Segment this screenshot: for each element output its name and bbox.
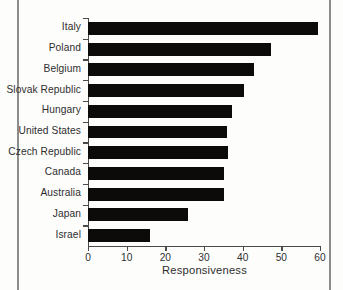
category-label: Italy [62, 21, 81, 32]
bar [88, 105, 232, 118]
bar [88, 126, 227, 139]
bar [88, 208, 188, 221]
bar-chart-figure: ItalyPolandBelgiumSlovak RepublicHungary… [0, 0, 343, 290]
bar-row: Italy [88, 18, 320, 39]
bar-row: Canada [88, 163, 320, 184]
bar-row: United States [88, 122, 320, 143]
bar-row: Australia [88, 184, 320, 205]
x-axis-tick [243, 246, 244, 251]
y-axis-tick [83, 184, 88, 185]
bar-row: Poland [88, 39, 320, 60]
bar-row: Japan [88, 205, 320, 226]
bar [88, 43, 271, 56]
x-axis-tick [204, 246, 205, 251]
x-axis-tick-label: 30 [198, 252, 209, 263]
x-axis-tick-label: 10 [121, 252, 132, 263]
y-axis-tick [83, 225, 88, 226]
y-axis-tick [83, 18, 88, 19]
category-label: Slovak Republic [6, 84, 81, 95]
bar [88, 22, 318, 35]
x-axis-tick-label: 60 [314, 252, 325, 263]
y-axis-tick [83, 142, 88, 143]
bar-row: Czech Republic [88, 142, 320, 163]
bar-row: Hungary [88, 101, 320, 122]
bar-row: Slovak Republic [88, 80, 320, 101]
bar [88, 188, 224, 201]
plot-area: ItalyPolandBelgiumSlovak RepublicHungary… [88, 18, 320, 246]
y-axis-tick [83, 101, 88, 102]
bar-row: Israel [88, 225, 320, 246]
category-label: Belgium [43, 63, 81, 74]
bar [88, 167, 224, 180]
category-label: Poland [49, 42, 81, 53]
y-axis-tick [83, 80, 88, 81]
x-axis-tick-label: 20 [160, 252, 171, 263]
x-axis-tick-label: 40 [237, 252, 248, 263]
category-label: Czech Republic [8, 146, 81, 157]
category-label: United States [19, 125, 81, 136]
category-label: Hungary [42, 104, 81, 115]
category-label: Israel [55, 229, 81, 240]
x-axis-label: Responsiveness [88, 264, 321, 276]
bar-row: Belgium [88, 59, 320, 80]
x-axis-tick [165, 246, 166, 251]
x-axis-tick-label: 50 [276, 252, 287, 263]
category-label: Australia [40, 187, 81, 198]
x-axis-tick-label: 0 [85, 252, 91, 263]
page-rule-right [329, 0, 331, 290]
category-label: Japan [53, 208, 81, 219]
x-axis-tick [281, 246, 282, 251]
y-axis-tick [83, 163, 88, 164]
y-axis-tick [83, 59, 88, 60]
x-axis-tick [320, 246, 321, 251]
y-axis-tick [83, 205, 88, 206]
x-axis-tick [88, 246, 89, 251]
bar [88, 84, 244, 97]
bar [88, 63, 254, 76]
y-axis-tick [83, 39, 88, 40]
category-label: Canada [45, 166, 81, 177]
y-axis-tick [83, 122, 88, 123]
bar [88, 146, 228, 159]
x-axis-tick [127, 246, 128, 251]
bar [88, 229, 150, 242]
